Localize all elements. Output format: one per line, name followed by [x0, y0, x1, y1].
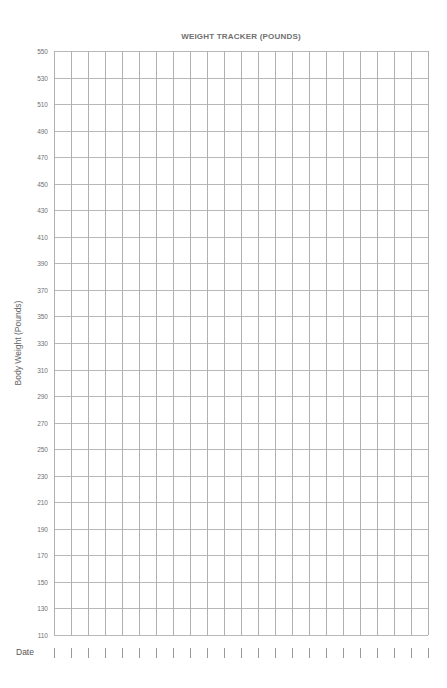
gridline-vertical [122, 51, 123, 635]
y-tick-label: 370 [20, 286, 48, 293]
x-axis-label: Date [16, 647, 34, 657]
date-tick-mark [71, 648, 72, 658]
gridline-vertical [343, 51, 344, 635]
y-tick-label: 410 [20, 233, 48, 240]
gridline-vertical [428, 51, 429, 635]
gridline-vertical [292, 51, 293, 635]
gridline-vertical [71, 51, 72, 635]
gridline-vertical [394, 51, 395, 635]
gridline-vertical [173, 51, 174, 635]
date-tick-mark [54, 648, 55, 658]
y-tick-label: 510 [20, 101, 48, 108]
date-tick-mark [207, 648, 208, 658]
gridline-vertical [207, 51, 208, 635]
date-tick-mark [326, 648, 327, 658]
date-tick-mark [275, 648, 276, 658]
y-tick-label: 530 [20, 74, 48, 81]
y-tick-label: 230 [20, 472, 48, 479]
date-tick-mark [173, 648, 174, 658]
y-tick-label: 330 [20, 340, 48, 347]
date-tick-mark [360, 648, 361, 658]
date-tick-mark [428, 648, 429, 658]
y-tick-label: 130 [20, 605, 48, 612]
date-tick-mark [377, 648, 378, 658]
y-tick-label: 550 [20, 48, 48, 55]
y-tick-label: 210 [20, 499, 48, 506]
date-tick-mark [224, 648, 225, 658]
date-tick-mark [258, 648, 259, 658]
y-tick-label: 250 [20, 446, 48, 453]
date-tick-mark [122, 648, 123, 658]
y-tick-label: 450 [20, 180, 48, 187]
plot-grid [54, 51, 428, 635]
date-tick-mark [139, 648, 140, 658]
y-tick-label: 310 [20, 366, 48, 373]
date-tick-mark [190, 648, 191, 658]
gridline-horizontal [54, 635, 428, 636]
y-tick-label: 470 [20, 154, 48, 161]
date-tick-mark [292, 648, 293, 658]
date-tick-mark [394, 648, 395, 658]
date-tick-mark [105, 648, 106, 658]
y-tick-label: 350 [20, 313, 48, 320]
gridline-vertical [224, 51, 225, 635]
gridline-vertical [105, 51, 106, 635]
y-tick-label: 390 [20, 260, 48, 267]
y-tick-label: 110 [20, 632, 48, 639]
y-tick-label: 490 [20, 127, 48, 134]
gridline-vertical [156, 51, 157, 635]
y-tick-label: 290 [20, 393, 48, 400]
date-tick-mark [156, 648, 157, 658]
y-tick-label: 170 [20, 552, 48, 559]
gridline-vertical [54, 51, 55, 635]
chart-title: WEIGHT TRACKER (POUNDS) [54, 32, 428, 41]
gridline-vertical [88, 51, 89, 635]
y-tick-label: 190 [20, 525, 48, 532]
date-tick-mark [88, 648, 89, 658]
y-tick-label: 430 [20, 207, 48, 214]
gridline-vertical [411, 51, 412, 635]
gridline-vertical [377, 51, 378, 635]
gridline-vertical [139, 51, 140, 635]
date-tick-mark [309, 648, 310, 658]
gridline-vertical [275, 51, 276, 635]
gridline-vertical [241, 51, 242, 635]
gridline-vertical [326, 51, 327, 635]
gridline-vertical [190, 51, 191, 635]
gridline-vertical [309, 51, 310, 635]
gridline-vertical [360, 51, 361, 635]
date-tick-mark [343, 648, 344, 658]
date-tick-mark [241, 648, 242, 658]
date-tick-mark [411, 648, 412, 658]
y-tick-label: 150 [20, 578, 48, 585]
gridline-vertical [258, 51, 259, 635]
y-tick-label: 270 [20, 419, 48, 426]
